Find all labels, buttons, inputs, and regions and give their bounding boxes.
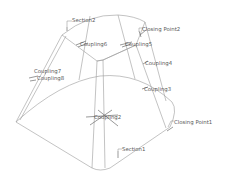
loft-diagram: Section2 Closing Point2 Coupling6 Coupli… [0, 0, 227, 178]
label-coupling4: Coupling4 [145, 60, 173, 67]
label-coupling7: Coupling7 [34, 68, 61, 75]
label-coupling2: Coupling2 [94, 114, 121, 121]
label-coupling8: Coupling8 [37, 75, 65, 82]
label-closing-point1: Closing Point1 [174, 119, 212, 126]
label-section2: Section2 [72, 17, 95, 23]
label-coupling3: Coupling3 [144, 86, 171, 93]
label-coupling5: Coupling5 [125, 41, 152, 48]
label-coupling6: Coupling6 [80, 41, 108, 48]
label-closing-point2: Closing Point2 [142, 26, 180, 33]
label-section1: Section1 [122, 146, 145, 152]
